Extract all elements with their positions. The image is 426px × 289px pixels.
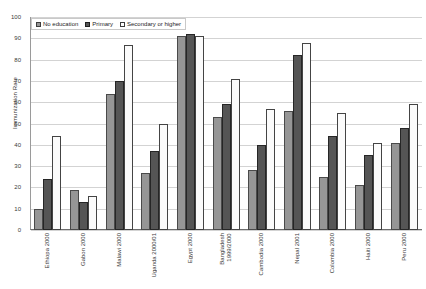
gridline — [31, 124, 422, 125]
y-tick-label: 90 — [0, 35, 21, 41]
gridline — [31, 187, 422, 188]
y-tick-label: 60 — [0, 99, 21, 105]
y-tick-label: 40 — [0, 141, 21, 147]
legend-entry[interactable]: Primary — [85, 21, 113, 27]
x-tick-label-cell: Haiti 2000 — [351, 231, 387, 289]
x-tick-label-cell: Egypt 2000 — [173, 231, 209, 289]
chart-legend: No educationPrimarySecondary or higher — [31, 18, 186, 30]
x-tick-label: Gabon 2000 — [80, 233, 87, 266]
legend-label: Primary — [92, 21, 113, 27]
x-tick-label-cell: Uganda 2000/01 — [137, 231, 173, 289]
x-axis-tick-labels: Ethiopa 2000Gabon 2000Malawi 2000Uganda … — [30, 231, 422, 289]
x-tick-label-cell: Nepal 2001 — [279, 231, 315, 289]
x-tick-label: Malawi 2000 — [116, 233, 123, 267]
y-tick-label: 50 — [0, 120, 21, 126]
x-tick-label: Nepal 2001 — [294, 233, 301, 264]
gridline — [31, 102, 422, 103]
legend-entry[interactable]: Secondary or higher — [120, 21, 181, 27]
gridline — [31, 209, 422, 210]
gridline — [31, 38, 422, 39]
y-tick-label: 0 — [0, 227, 21, 233]
x-tick-label: Bangladesh 1999/2000 — [219, 233, 233, 265]
gridline — [31, 81, 422, 82]
gridline — [31, 60, 422, 61]
gridline — [31, 166, 422, 167]
legend-label: No education — [43, 21, 78, 27]
x-tick-label: Colombia 2000 — [329, 233, 336, 273]
legend-label: Secondary or higher — [127, 21, 181, 27]
y-tick-label: 30 — [0, 163, 21, 169]
legend-swatch-icon — [36, 22, 41, 27]
y-tick-label: 10 — [0, 205, 21, 211]
x-tick-label: Haiti 2000 — [365, 233, 372, 260]
legend-swatch-icon — [120, 22, 125, 27]
y-tick-label: 80 — [0, 56, 21, 62]
legend-swatch-icon — [85, 22, 90, 27]
x-tick-label-cell: Colombia 2000 — [315, 231, 351, 289]
x-tick-label-cell: Peru 2000 — [386, 231, 422, 289]
immunization-rate-bar-chart: Immunization Rate 1009080706050403020100… — [0, 0, 426, 289]
x-tick-label-cell: Bangladesh 1999/2000 — [208, 231, 244, 289]
gridline — [31, 145, 422, 146]
y-tick-label: 70 — [0, 77, 21, 83]
legend-entry[interactable]: No education — [36, 21, 78, 27]
x-tick-label: Uganda 2000/01 — [151, 233, 158, 277]
x-tick-label: Egypt 2000 — [187, 233, 194, 263]
x-tick-label-cell: Ethiopa 2000 — [30, 231, 66, 289]
x-tick-label-cell: Cambodia 2000 — [244, 231, 280, 289]
plot-area: 1009080706050403020100 — [30, 17, 422, 230]
y-tick-label: 20 — [0, 184, 21, 190]
y-tick-label: 100 — [0, 14, 21, 20]
x-tick-label: Ethiopa 2000 — [44, 233, 51, 268]
x-tick-label: Peru 2000 — [401, 233, 408, 261]
x-tick-label-cell: Malawi 2000 — [101, 231, 137, 289]
x-tick-label: Cambodia 2000 — [258, 233, 265, 275]
x-tick-label-cell: Gabon 2000 — [66, 231, 102, 289]
